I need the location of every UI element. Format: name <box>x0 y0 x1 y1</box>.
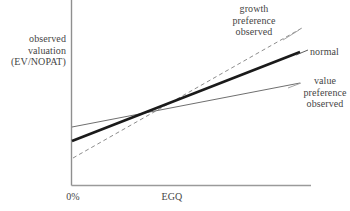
series-line-growth-preference-observed <box>73 28 302 158</box>
series-line-value-preference-observed <box>72 83 300 127</box>
x-axis-label: EGQ <box>150 191 194 203</box>
x-axis-tick-zero-percent: 0% <box>58 191 88 203</box>
y-axis-label: observed valuation (EV/NOPAT) <box>8 33 66 68</box>
series-line-normal <box>72 52 300 141</box>
annotation-growth-preference-observed: growth preference observed <box>208 3 300 38</box>
figure-container: observed valuation (EV/NOPAT) growth pre… <box>0 0 350 211</box>
annotation-normal: normal <box>310 46 350 58</box>
annotation-value-preference-observed: value preference observed <box>300 75 350 110</box>
